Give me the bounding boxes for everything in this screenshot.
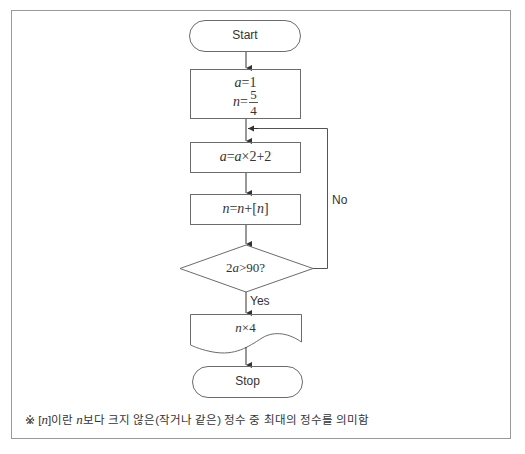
yes-label: Yes: [250, 294, 270, 308]
step2-floor-var: n: [257, 201, 264, 216]
stop-label: Stop: [192, 374, 303, 388]
fraction-denominator: 4: [250, 104, 257, 117]
fraction-numerator: 5: [250, 88, 257, 101]
step2-close: ]: [264, 201, 269, 216]
decision-condition: 2a>90?: [190, 260, 301, 276]
decision-rest: >90?: [239, 260, 265, 275]
step2-expression: n=n+[n]: [190, 201, 301, 217]
footnote-mid: ]이란: [48, 414, 76, 426]
footnote: ※ [n]이란 n보다 크지 않은(작거나 같은) 정수 중 최대의 정수를 의…: [25, 411, 369, 428]
step1-expression: a=a×2+2: [190, 149, 301, 165]
init-n-eq: =: [240, 94, 248, 109]
step1-lhs-var: a: [220, 149, 227, 164]
output-rest: ×4: [242, 320, 256, 335]
fraction-five-fourths: 54: [249, 88, 258, 117]
no-label: No: [332, 193, 347, 207]
step1-rest: ×2+2: [242, 149, 272, 164]
init-line-n: n=54: [190, 88, 301, 117]
footnote-prefix: ※ [: [25, 414, 41, 426]
var-n: n: [233, 94, 240, 109]
start-label: Start: [189, 28, 301, 42]
output-expression: n×4: [190, 320, 301, 336]
step1-rhs-var: a: [235, 149, 242, 164]
step1-eq: =: [227, 149, 235, 164]
step2-plus: +[: [244, 201, 257, 216]
footnote-suffix: 보다 크지 않은(작거나 같은) 정수 중 최대의 정수를 의미함: [83, 414, 369, 426]
